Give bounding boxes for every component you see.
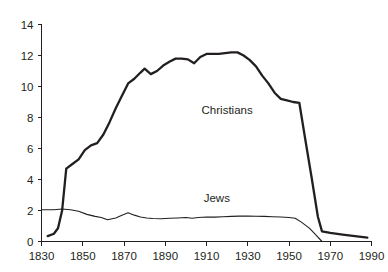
series-line-christians (48, 52, 368, 237)
series-line-jews (42, 209, 323, 242)
series-label-christians: Christians (202, 104, 253, 116)
y-axis: 02468101214 (21, 19, 42, 248)
y-tick-label: 6 (27, 143, 33, 155)
x-tick-label: 1950 (276, 250, 302, 262)
x-axis: 183018501870189019101930195019701990 (29, 242, 385, 262)
y-tick-label: 0 (27, 236, 33, 248)
y-tick-label: 14 (21, 19, 34, 31)
x-tick-label: 1910 (194, 250, 220, 262)
y-tick-label: 4 (27, 174, 34, 186)
x-tick-label: 1830 (29, 250, 55, 262)
x-tick-label: 1890 (152, 250, 178, 262)
chart-container: 02468101214 1830185018701890191019301950… (0, 0, 388, 272)
series-label-jews: Jews (204, 192, 230, 204)
x-tick-label: 1870 (111, 250, 137, 262)
x-tick-label: 1850 (70, 250, 96, 262)
y-tick-label: 8 (27, 112, 33, 124)
y-tick-label: 10 (21, 81, 34, 93)
x-tick-label: 1970 (317, 250, 343, 262)
line-chart: 02468101214 1830185018701890191019301950… (0, 0, 388, 272)
y-tick-label: 12 (21, 50, 34, 62)
x-tick-label: 1990 (359, 250, 385, 262)
y-tick-label: 2 (27, 205, 33, 217)
series-layer (42, 52, 368, 241)
x-tick-label: 1930 (235, 250, 261, 262)
series-annotations: ChristiansJews (202, 104, 253, 204)
